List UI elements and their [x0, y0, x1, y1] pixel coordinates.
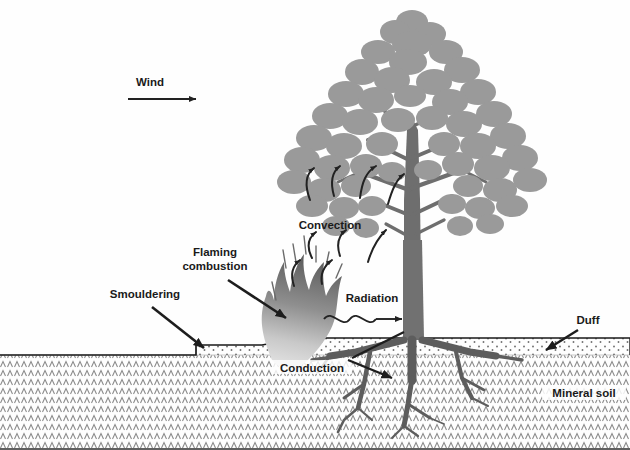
diagram-canvas: Wind Convection Radiation Flaming combus…	[0, 0, 630, 450]
smouldering-label: Smouldering	[110, 288, 180, 300]
convection-label: Convection	[299, 219, 362, 231]
mineral-soil-label: Mineral soil	[552, 387, 615, 399]
flaming-combustion-label-line1: Flaming	[193, 246, 237, 258]
conduction-label: Conduction	[280, 362, 344, 374]
flaming-combustion-label-line2: combustion	[182, 260, 247, 272]
wind-label: Wind	[136, 76, 164, 88]
mineral-soil-group: Mineral soil	[542, 385, 626, 400]
soil-layers	[0, 338, 630, 450]
radiation-label: Radiation	[346, 292, 398, 304]
wildfire-diagram-svg: Wind Convection Radiation Flaming combus…	[0, 0, 630, 450]
duff-label: Duff	[577, 314, 600, 326]
